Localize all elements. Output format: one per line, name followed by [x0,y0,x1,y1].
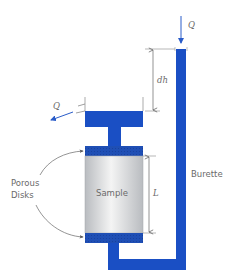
sample-label: Sample [96,188,128,198]
overflow-lip [76,104,85,113]
bottom-porous-disk [85,233,143,243]
permeameter-diagram [0,0,238,280]
burette-label: Burette [191,169,223,179]
top-porous-disk [85,146,143,156]
q-outflow-label: Q [53,101,60,111]
top-stem [108,127,121,147]
burette-tube [176,49,186,270]
dh-label: dh [157,75,168,85]
bottom-pipe [108,259,186,270]
porous-pointer-top-icon [40,151,83,175]
outflow-arrow-icon [51,112,73,120]
porous-disks-label-line1: Porous [11,178,39,188]
top-reservoir [85,111,143,127]
porous-pointer-bottom-icon [36,205,83,237]
porous-disks-label-line2: Disks [11,190,34,200]
bottom-stem [108,242,119,270]
q-inflow-label: Q [188,20,195,30]
length-label: L [153,188,159,198]
